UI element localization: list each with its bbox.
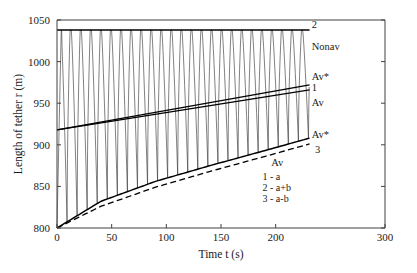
label-2: 2: [312, 19, 317, 30]
x-tick-label: 100: [158, 231, 175, 243]
x-tick-label: 300: [377, 231, 394, 243]
y-tick-label: 800: [34, 222, 51, 234]
label-avstar-mid: Av*: [312, 71, 329, 82]
y-tick-label: 950: [34, 97, 51, 109]
chart-figure: 050100150200300 80085090095010001050 Tim…: [0, 0, 417, 273]
x-tick-label: 150: [213, 231, 230, 243]
x-tick-label: 50: [106, 231, 118, 243]
tether-length-plot: 050100150200300 80085090095010001050 Tim…: [0, 0, 417, 273]
label-av-low: Av: [271, 157, 284, 168]
y-tick-label: 850: [34, 180, 51, 192]
x-tick-label: 200: [267, 231, 284, 243]
label-3: 3: [315, 144, 320, 155]
label-avstar-low: Av*: [312, 129, 329, 140]
y-tick-label: 1000: [28, 56, 51, 68]
legend-entry-1: 1 - a: [263, 171, 281, 182]
legend-entry-3: 3 - a-b: [263, 193, 289, 204]
y-tick-label: 900: [34, 139, 51, 151]
y-axis-title: Length of tether r (m): [12, 74, 25, 174]
legend-entry-2: 2 - a+b: [263, 182, 291, 193]
label-nonav-top: Nonav: [312, 41, 341, 52]
x-tick-label: 0: [54, 231, 60, 243]
label-av-mid: Av: [312, 97, 325, 108]
y-tick-label: 1050: [28, 14, 51, 26]
x-axis-title: Time t (s): [199, 248, 244, 261]
x-axis-tick-labels: 050100150200300: [54, 231, 394, 243]
y-axis-tick-labels: 80085090095010001050: [28, 14, 51, 234]
label-1: 1: [312, 82, 317, 93]
